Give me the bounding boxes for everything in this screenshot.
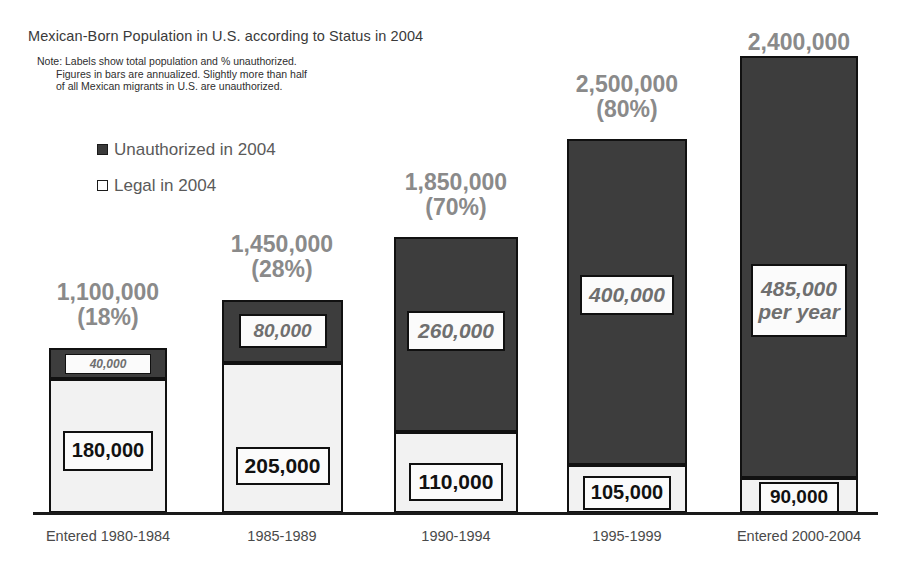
bar-5[interactable]: 485,000 per year 90,000 [740,56,858,513]
bar-3-segment-legal[interactable]: 110,000 [394,432,518,513]
bar-1-segment-unauthorized[interactable]: 40,000 [49,348,167,379]
chart-note-line-2: Figures in bars are annualized. Slightly… [37,68,307,81]
bar-5-unauthorized-value: 485,000 per year [758,278,840,323]
bar-1-segment-legal[interactable]: 180,000 [49,379,167,513]
bar-5-segment-legal[interactable]: 90,000 [740,478,858,513]
x-tick-label-2: 1985-1989 [186,528,378,544]
legend-label-legal: Legal in 2004 [114,176,216,196]
bar-2-unauthorized-value: 80,000 [253,321,311,342]
bar-total-label-1: 1,100,000 (18%) [9,280,207,330]
chart-note: Note: Labels show total population and %… [37,55,307,93]
bar-3-segment-unauthorized[interactable]: 260,000 [394,237,518,432]
bar-5-legal-value: 90,000 [770,487,828,508]
bar-4-legal-value: 105,000 [591,482,663,504]
bar-3-legal-value-box: 110,000 [409,463,503,501]
chart-canvas: Mexican-Born Population in U.S. accordin… [0,0,905,567]
bar-3-legal-value: 110,000 [419,471,494,494]
bar-total-label-4: 2,500,000 (80%) [528,72,726,122]
x-tick-label-1: Entered 1980-1984 [12,528,204,544]
chart-note-line-3: of all Mexican migrants in U.S. are unau… [37,80,307,93]
bar-2-segment-legal[interactable]: 205,000 [222,363,343,513]
bar-3[interactable]: 260,000 110,000 [394,237,518,513]
bar-4-unauthorized-value: 400,000 [589,284,665,307]
bar-total-label-2: 1,450,000 (28%) [183,232,381,282]
x-axis-line [33,512,878,515]
bar-total-pct-4: (80%) [528,97,726,122]
x-tick-label-5: Entered 2000-2004 [703,528,895,544]
bar-total-value-3: 1,850,000 [405,169,507,195]
bar-3-unauthorized-value: 260,000 [418,320,494,343]
legend-swatch-unauthorized-icon [97,144,108,155]
bar-total-label-3: 1,850,000 (70%) [357,170,555,220]
x-tick-label-3: 1990-1994 [360,528,552,544]
bar-total-value-4: 2,500,000 [576,71,678,97]
bar-1[interactable]: 40,000 180,000 [49,348,167,513]
bar-2[interactable]: 80,000 205,000 [222,300,343,513]
bar-total-value-2: 1,450,000 [231,231,333,257]
bar-2-legal-value: 205,000 [245,455,321,478]
bar-4[interactable]: 400,000 105,000 [567,139,687,513]
bar-2-segment-unauthorized[interactable]: 80,000 [222,300,343,363]
legend-swatch-legal-icon [97,180,108,191]
bar-4-legal-value-box: 105,000 [583,476,671,510]
bar-1-unauthorized-value: 40,000 [90,358,127,371]
legend-label-unauthorized: Unauthorized in 2004 [114,140,276,160]
x-tick-label-4: 1995-1999 [531,528,723,544]
bar-total-pct-1: (18%) [9,305,207,330]
bar-5-legal-value-box: 90,000 [759,482,839,513]
bar-2-legal-value-box: 205,000 [236,447,330,485]
legend-item-legal: Legal in 2004 [97,172,276,199]
bar-1-unauthorized-value-box: 40,000 [65,354,151,374]
legend-item-unauthorized: Unauthorized in 2004 [97,136,276,163]
bar-total-value-1: 1,100,000 [57,279,159,305]
page-title: Mexican-Born Population in U.S. accordin… [28,28,423,44]
bar-total-pct-2: (28%) [183,257,381,282]
bar-4-unauthorized-value-box: 400,000 [580,275,674,315]
bar-2-unauthorized-value-box: 80,000 [239,314,327,348]
bar-4-segment-legal[interactable]: 105,000 [567,465,687,513]
bar-1-legal-value: 180,000 [72,440,144,462]
bar-3-unauthorized-value-box: 260,000 [407,311,505,351]
bar-5-segment-unauthorized[interactable]: 485,000 per year [740,56,858,478]
chart-legend: Unauthorized in 2004 Legal in 2004 [97,136,276,199]
bar-5-unauthorized-value-box: 485,000 per year [751,264,847,337]
bar-4-segment-unauthorized[interactable]: 400,000 [567,139,687,465]
bar-1-legal-value-box: 180,000 [63,431,153,471]
bar-total-pct-3: (70%) [357,195,555,220]
chart-note-line-1: Note: Labels show total population and %… [37,55,307,68]
bar-total-value-5: 2,400,000 [748,29,850,55]
